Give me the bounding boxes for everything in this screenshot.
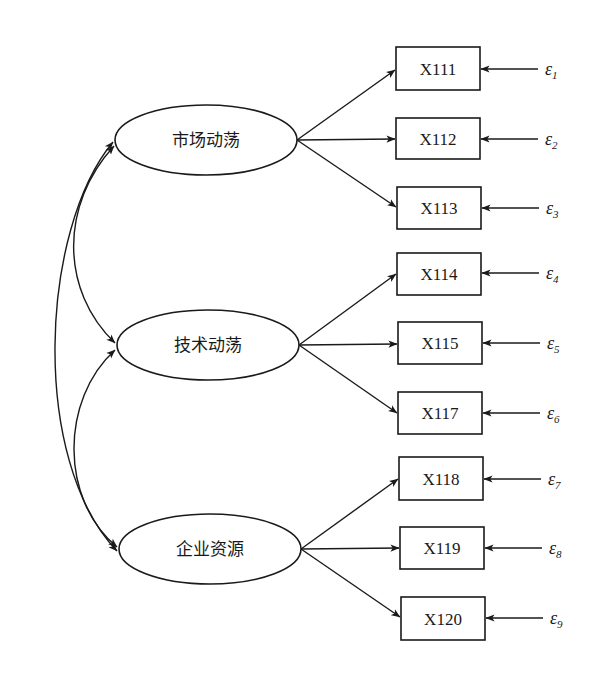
error-term: ε9 [550,608,563,630]
indicator-label: X120 [424,610,462,629]
loading-arrow-x118 [301,479,398,549]
indicator-x118: X118 ε7 [399,457,561,500]
factor-label: 技术动荡 [174,335,242,355]
loading-arrow-x112 [297,139,395,140]
error-term: ε7 [548,469,561,491]
covariance-arcs [55,142,117,551]
indicator-x112: X112 ε2 [396,118,558,159]
sem-diagram: 市场动荡 技术动荡 企业资源 X111 ε1 X112 ε2 X113 ε3 X… [0,0,599,681]
covariance-arc-f1-f3 [55,142,117,551]
covariance-arc-f2-f3 [74,350,117,547]
factor-label: 市场动荡 [172,130,240,150]
factor-label: 企业资源 [176,539,244,559]
indicator-label: X119 [423,539,460,558]
error-term: ε3 [546,198,559,220]
loading-arrow-x113 [297,140,396,207]
indicator-x113: X113 ε3 [397,187,559,229]
error-term: ε6 [547,403,560,425]
covariance-arc-f1-f2 [74,146,115,343]
latent-factor-market-turbulence: 市场动荡 [115,105,297,175]
indicator-label: X112 [419,130,456,149]
indicator-x114: X114 ε4 [397,253,559,295]
factor-loadings [297,70,400,617]
loading-arrow-x117 [299,345,397,413]
loading-arrow-x111 [297,70,395,140]
loading-arrow-x119 [301,548,399,549]
loading-arrow-x115 [299,344,397,345]
indicator-label: X117 [421,404,459,423]
indicator-label: X113 [420,199,457,218]
indicator-x120: X120 ε9 [401,597,563,640]
error-term: ε2 [545,129,558,151]
indicator-x111: X111 ε1 [396,47,558,90]
latent-factor-enterprise-resources: 企业资源 [119,514,301,584]
loading-arrow-x114 [299,274,396,345]
error-term: ε4 [546,263,559,285]
indicator-label: X114 [420,265,458,284]
latent-factor-technology-turbulence: 技术动荡 [117,310,299,380]
indicator-label: X111 [420,60,457,79]
indicator-label: X118 [422,470,459,489]
error-term: ε8 [549,538,562,560]
error-term: ε1 [545,59,558,81]
loading-arrow-x120 [301,549,400,617]
indicator-label: X115 [421,334,458,353]
indicator-x117: X117 ε6 [398,392,560,434]
error-term: ε5 [547,333,560,355]
indicator-x119: X119 ε8 [400,527,562,569]
indicator-x115: X115 ε5 [398,322,560,364]
